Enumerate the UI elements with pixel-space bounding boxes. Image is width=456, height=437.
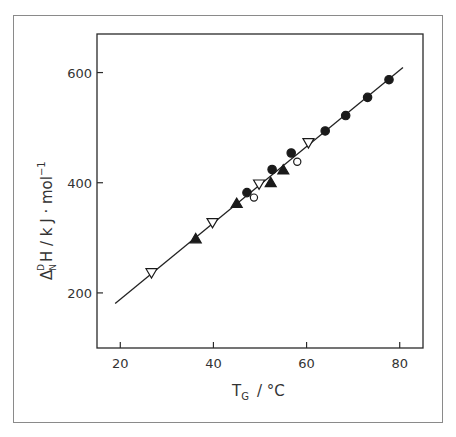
filled-triangle-marker (231, 198, 242, 207)
open-circle-marker (250, 194, 257, 201)
y-tick-label: 400 (67, 176, 92, 191)
filled-circle-marker (268, 165, 276, 173)
filled-circle-marker (363, 93, 371, 101)
plot-area (97, 34, 423, 348)
open-triangle-marker (303, 139, 314, 148)
x-axis-ticks: 20406080 (112, 342, 408, 371)
filled-circle-marker (243, 188, 251, 196)
x-tick-label: 80 (391, 356, 408, 371)
x-axis-title: TG/ °C (231, 382, 285, 402)
y-tick-label: 200 (67, 286, 92, 301)
x-tick-label: 40 (205, 356, 222, 371)
filled-circle-marker (321, 127, 329, 135)
filled-circle-marker (341, 111, 349, 119)
x-tick-label: 60 (298, 356, 315, 371)
filled-circle-marker (287, 149, 295, 157)
y-axis-title: ΔNDH / k J · mol−1 (36, 161, 58, 280)
filled-circle-marker (385, 76, 393, 84)
open-circle-marker (294, 158, 301, 165)
y-tick-label: 600 (67, 66, 92, 81)
x-tick-label: 20 (112, 356, 129, 371)
scatter-chart: 20406080 200400600 TG/ °C ΔNDH / k J · m… (0, 0, 456, 437)
